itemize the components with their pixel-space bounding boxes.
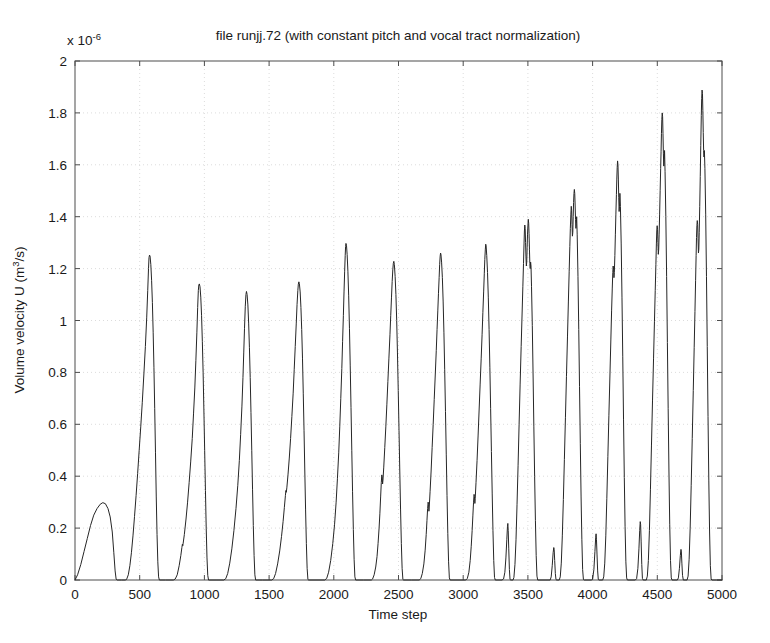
chart-svg: file runjj.72 (with constant pitch and v…	[0, 0, 770, 643]
y-axis-title-pre: Volume velocity U (m	[12, 267, 27, 394]
y-axis-exponent-label: x 10-6	[67, 31, 101, 48]
x-tick-label-5: 2500	[383, 587, 413, 602]
y-tick-label-10: 2	[59, 54, 67, 69]
x-axis-title: Time step	[369, 607, 428, 622]
y-tick-label-3: 0.6	[48, 417, 67, 432]
y-tick-label-4: 0.8	[48, 365, 67, 380]
x-tick-label-6: 3000	[448, 587, 478, 602]
y-tick-label-1: 0.2	[48, 521, 67, 536]
y-axis-title: Volume velocity U (m3/s)	[10, 246, 27, 393]
y-tick-label-8: 1.6	[48, 158, 67, 173]
x-tick-label-9: 4500	[642, 587, 672, 602]
y-tick-label-9: 1.8	[48, 106, 67, 121]
data-curve-layer	[75, 90, 722, 580]
y-tick-label-5: 1	[59, 314, 67, 329]
labels-layer: file runjj.72 (with constant pitch and v…	[10, 28, 737, 622]
x-tick-label-2: 1000	[189, 587, 219, 602]
x-tick-label-1: 500	[128, 587, 151, 602]
y-tick-label-7: 1.4	[48, 210, 67, 225]
x-tick-label-3: 1500	[254, 587, 284, 602]
y-tick-label-0: 0	[59, 573, 67, 588]
x-tick-label-7: 3500	[513, 587, 543, 602]
y-tick-labels: 00.20.40.60.811.21.41.61.82	[48, 54, 67, 588]
x-tick-label-10: 5000	[707, 587, 737, 602]
exponent-power: -6	[93, 31, 101, 42]
x-tick-labels: 0500100015002000250030003500400045005000	[71, 587, 737, 602]
x-tick-label-0: 0	[71, 587, 79, 602]
y-axis-title-post: /s)	[12, 246, 27, 261]
figure-container: file runjj.72 (with constant pitch and v…	[0, 0, 770, 643]
volume-velocity-curve	[75, 90, 722, 580]
x-tick-label-4: 2000	[319, 587, 349, 602]
y-tick-label-6: 1.2	[48, 262, 67, 277]
y-tick-label-2: 0.4	[48, 469, 67, 484]
chart-title: file runjj.72 (with constant pitch and v…	[216, 28, 581, 43]
x-tick-label-8: 4000	[578, 587, 608, 602]
exponent-prefix: x 10	[67, 33, 93, 48]
